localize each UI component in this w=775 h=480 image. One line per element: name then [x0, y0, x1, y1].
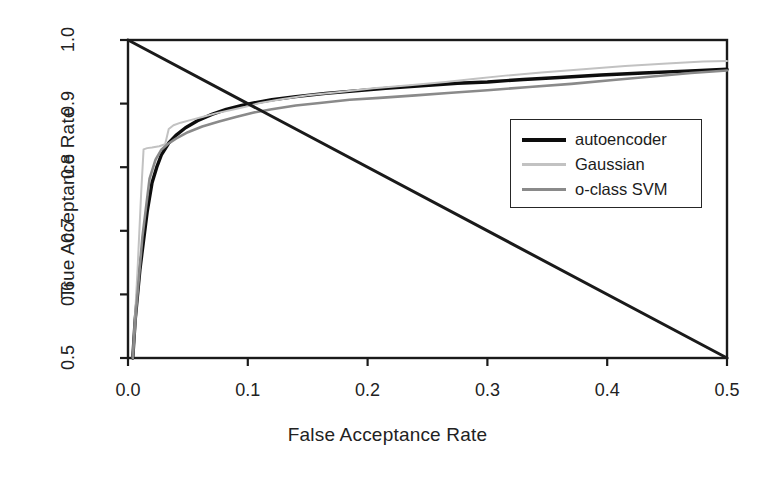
x-tick-label: 0.4: [577, 380, 637, 401]
legend-swatch-oclass-svm: [522, 188, 566, 191]
legend-label-oclass-svm: o-class SVM: [575, 181, 668, 198]
curve-gaussian: [133, 61, 727, 358]
x-tick-label: 0.3: [457, 380, 517, 401]
y-axis-title: True Acceptance Rate: [57, 43, 79, 363]
legend-swatch-gaussian: [522, 163, 566, 165]
legend-label-autoencoder: autoencoder: [575, 131, 667, 148]
legend-item-autoencoder: autoencoder: [511, 127, 701, 152]
curve-o-class-svm: [133, 71, 727, 358]
plot-canvas: [0, 0, 775, 480]
x-axis-title: False Acceptance Rate: [0, 424, 775, 446]
roc-chart-figure: 0.00.10.20.30.40.5 0.50.60.70.80.91.0 Fa…: [0, 0, 775, 480]
chart-legend: autoencoder Gaussian o-class SVM: [510, 119, 702, 208]
legend-swatch-autoencoder: [522, 138, 566, 142]
legend-label-gaussian: Gaussian: [575, 156, 645, 173]
x-tick-label: 0.5: [697, 380, 757, 401]
legend-item-oclass-svm: o-class SVM: [511, 177, 701, 202]
x-tick-label: 0.0: [98, 380, 158, 401]
x-tick-label: 0.1: [218, 380, 278, 401]
legend-item-gaussian: Gaussian: [511, 152, 701, 177]
x-tick-label: 0.2: [338, 380, 398, 401]
